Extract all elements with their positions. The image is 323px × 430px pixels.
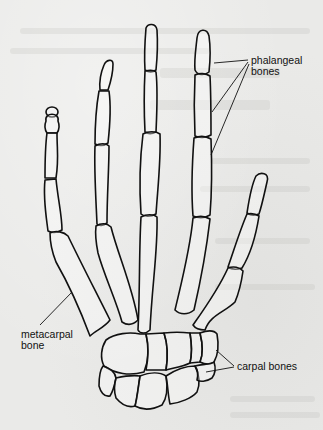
carpal-bones-group	[99, 331, 218, 409]
middle-finger-bones	[138, 24, 160, 333]
ring-finger-bones	[95, 60, 138, 324]
metacarpal-bone-label: metacarpal bone	[21, 329, 73, 351]
carpal-label-line1: carpal bones	[237, 361, 297, 372]
phalangeal-bones-label: phalangeal bones	[251, 55, 302, 77]
carpal-bones-label: carpal bones	[237, 361, 297, 372]
phalangeal-label-line2: bones	[251, 66, 302, 77]
metacarpal-label-line2: bone	[21, 340, 73, 351]
index-finger-bones	[175, 30, 212, 314]
